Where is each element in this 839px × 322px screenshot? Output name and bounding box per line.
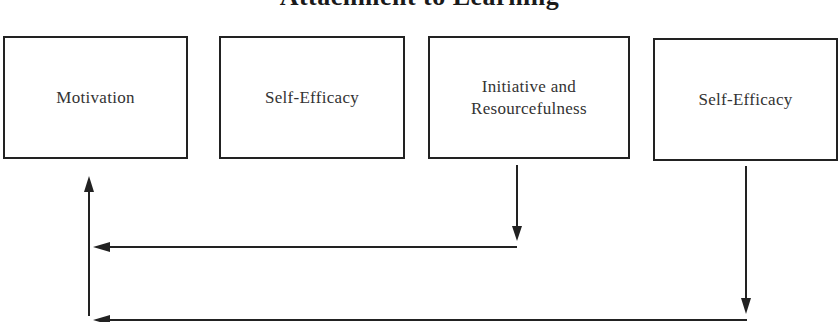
arrow-down-from-initiative — [512, 165, 522, 241]
arrow-left-self-efficacy-feedback — [93, 315, 747, 322]
connector-arrows — [0, 0, 839, 322]
arrow-down-from-self-efficacy-2 — [741, 166, 751, 314]
arrow-left-initiative-feedback — [93, 242, 517, 252]
arrow-up-to-motivation — [84, 176, 94, 316]
